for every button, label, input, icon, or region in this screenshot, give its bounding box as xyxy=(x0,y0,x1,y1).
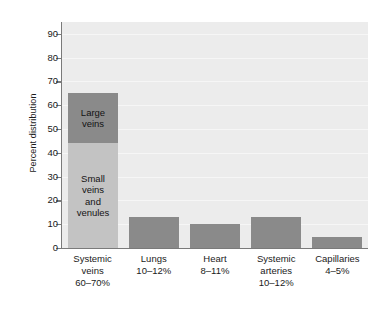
category-label-lungs: Lungs10–12% xyxy=(123,253,184,277)
y-tick-label: 50 xyxy=(18,124,58,134)
bar-segment-label: Smallveinsandvenules xyxy=(68,173,118,219)
bar-segment xyxy=(190,224,240,248)
y-tick-label: 0 xyxy=(18,243,58,253)
bar-capillaries xyxy=(312,22,362,248)
bar-segment-label: Largeveins xyxy=(68,107,118,130)
y-tick-label: 30 xyxy=(18,172,58,182)
y-tick-label: 70 xyxy=(18,76,58,86)
y-tick-label: 90 xyxy=(18,29,58,39)
bar-segment xyxy=(129,217,179,248)
bar-heart xyxy=(190,22,240,248)
bar-lungs xyxy=(129,22,179,248)
y-tick-label: 40 xyxy=(18,148,58,158)
bar-segment xyxy=(251,217,301,248)
y-tick-label: 80 xyxy=(18,53,58,63)
bar-systemic-veins: SmallveinsandvenulesLargeveins xyxy=(68,22,118,248)
x-axis-line xyxy=(61,248,368,249)
category-label-capillaries: Capillaries4–5% xyxy=(307,253,368,277)
category-label-systemic-arteries: Systemicarteries10–12% xyxy=(246,253,307,289)
percent-distribution-bar-chart: Percent distribution 0102030405060708090… xyxy=(0,0,385,310)
category-label-systemic-veins: Systemicveins60–70% xyxy=(62,253,123,289)
bar-systemic-arteries xyxy=(251,22,301,248)
y-tick-label: 60 xyxy=(18,100,58,110)
category-label-heart: Heart8–11% xyxy=(184,253,245,277)
y-axis-line xyxy=(61,22,62,249)
bar-segment xyxy=(312,237,362,248)
y-tick-label: 20 xyxy=(18,195,58,205)
y-tick-label: 10 xyxy=(18,219,58,229)
